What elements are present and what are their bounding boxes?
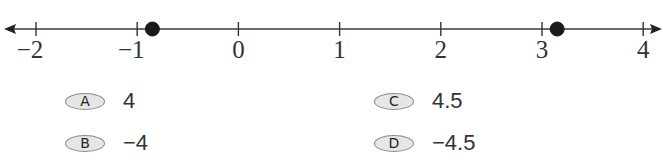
tick-label: 3 xyxy=(536,36,549,64)
tick-label: 2 xyxy=(435,36,448,64)
option-d-bubble[interactable]: D xyxy=(374,135,414,152)
option-b-bubble[interactable]: B xyxy=(65,135,105,152)
tick-label: 1 xyxy=(333,36,346,64)
option-c-text: 4.5 xyxy=(432,88,463,114)
tick-label: 4 xyxy=(637,36,650,64)
option-b-text: −4 xyxy=(123,130,148,156)
option-a[interactable]: A 4 xyxy=(65,89,135,113)
tick-label: 0 xyxy=(232,36,245,64)
number-line xyxy=(0,0,663,80)
option-a-bubble[interactable]: A xyxy=(65,93,105,110)
point-2-dot-icon xyxy=(550,22,564,36)
point-1-dot-icon xyxy=(145,22,159,36)
option-d-text: −4.5 xyxy=(432,130,475,156)
tick-label: −2 xyxy=(17,36,44,64)
option-c-bubble[interactable]: C xyxy=(374,93,414,110)
option-b[interactable]: B −4 xyxy=(65,131,148,155)
tick-label: −1 xyxy=(118,36,145,64)
option-a-text: 4 xyxy=(123,88,135,114)
option-c[interactable]: C 4.5 xyxy=(374,89,463,113)
option-d[interactable]: D −4.5 xyxy=(374,131,475,155)
